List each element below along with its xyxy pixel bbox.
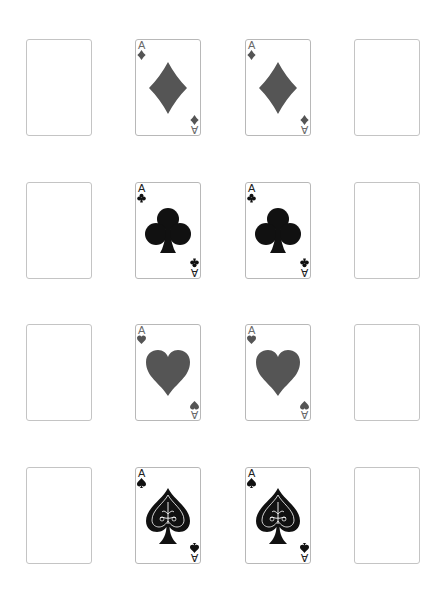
card-ace-of-hearts[interactable]: A A <box>135 324 201 421</box>
empty-card-slot[interactable] <box>354 324 420 421</box>
card-rank: A <box>301 409 308 420</box>
club-icon <box>255 207 301 255</box>
heart-icon <box>146 350 190 396</box>
spade-icon <box>247 478 256 488</box>
spade-icon <box>137 478 146 488</box>
card-rank: A <box>301 267 308 278</box>
club-icon <box>137 193 146 203</box>
card-rank: A <box>301 552 308 563</box>
card-ace-of-hearts[interactable]: A A <box>245 324 311 421</box>
heart-icon <box>137 335 146 345</box>
card-ace-of-clubs[interactable]: A A <box>245 182 311 279</box>
card-rank: A <box>191 552 198 563</box>
card-rank: A <box>191 267 198 278</box>
empty-card-slot[interactable] <box>354 39 420 136</box>
empty-card-slot[interactable] <box>26 324 92 421</box>
diamond-icon <box>149 62 187 114</box>
ornate-spade-icon <box>256 488 300 544</box>
empty-card-slot[interactable] <box>354 182 420 279</box>
diamond-icon <box>137 50 146 60</box>
empty-card-slot[interactable] <box>354 467 420 564</box>
heart-icon <box>256 350 300 396</box>
ornate-spade-icon <box>146 488 190 544</box>
card-rank: A <box>191 124 198 135</box>
diamond-icon <box>259 62 297 114</box>
club-icon <box>145 207 191 255</box>
heart-icon <box>247 335 256 345</box>
empty-card-slot[interactable] <box>26 182 92 279</box>
empty-card-slot[interactable] <box>26 39 92 136</box>
card-ace-of-spades[interactable]: A A <box>135 467 201 564</box>
card-rank: A <box>191 409 198 420</box>
card-ace-of-spades[interactable]: A A <box>245 467 311 564</box>
card-ace-of-diamonds[interactable]: A A <box>135 39 201 136</box>
club-icon <box>247 193 256 203</box>
card-ace-of-diamonds[interactable]: A A <box>245 39 311 136</box>
card-rank: A <box>301 124 308 135</box>
card-board: A A A A A A A A A A A <box>0 0 442 600</box>
empty-card-slot[interactable] <box>26 467 92 564</box>
card-ace-of-clubs[interactable]: A A <box>135 182 201 279</box>
diamond-icon <box>247 50 256 60</box>
